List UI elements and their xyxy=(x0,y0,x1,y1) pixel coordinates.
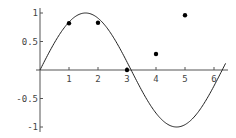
data-point xyxy=(96,20,100,24)
y-tick-labels: 1 0.5 -0.5 -1 xyxy=(16,8,38,132)
y-tick-neg-1: -1 xyxy=(27,122,38,132)
x-tick-1: 1 xyxy=(66,74,71,84)
x-tick-5: 5 xyxy=(182,74,187,84)
x-axis xyxy=(36,67,228,70)
x-tick-3: 3 xyxy=(124,74,129,84)
x-tick-labels: 1 2 3 4 5 6 xyxy=(66,74,216,84)
y-tick-1: 1 xyxy=(33,8,38,18)
x-tick-4: 4 xyxy=(153,74,158,84)
chart: 1 2 3 4 5 6 1 0.5 -0.5 -1 xyxy=(0,0,236,138)
data-point xyxy=(183,13,187,17)
data-point xyxy=(67,21,71,25)
y-tick-0.5: 0.5 xyxy=(22,37,38,47)
data-point xyxy=(154,52,158,56)
y-tick-neg-0.5: -0.5 xyxy=(16,94,38,104)
x-tick-2: 2 xyxy=(95,74,100,84)
data-point xyxy=(125,68,129,72)
scatter-points xyxy=(67,13,187,72)
